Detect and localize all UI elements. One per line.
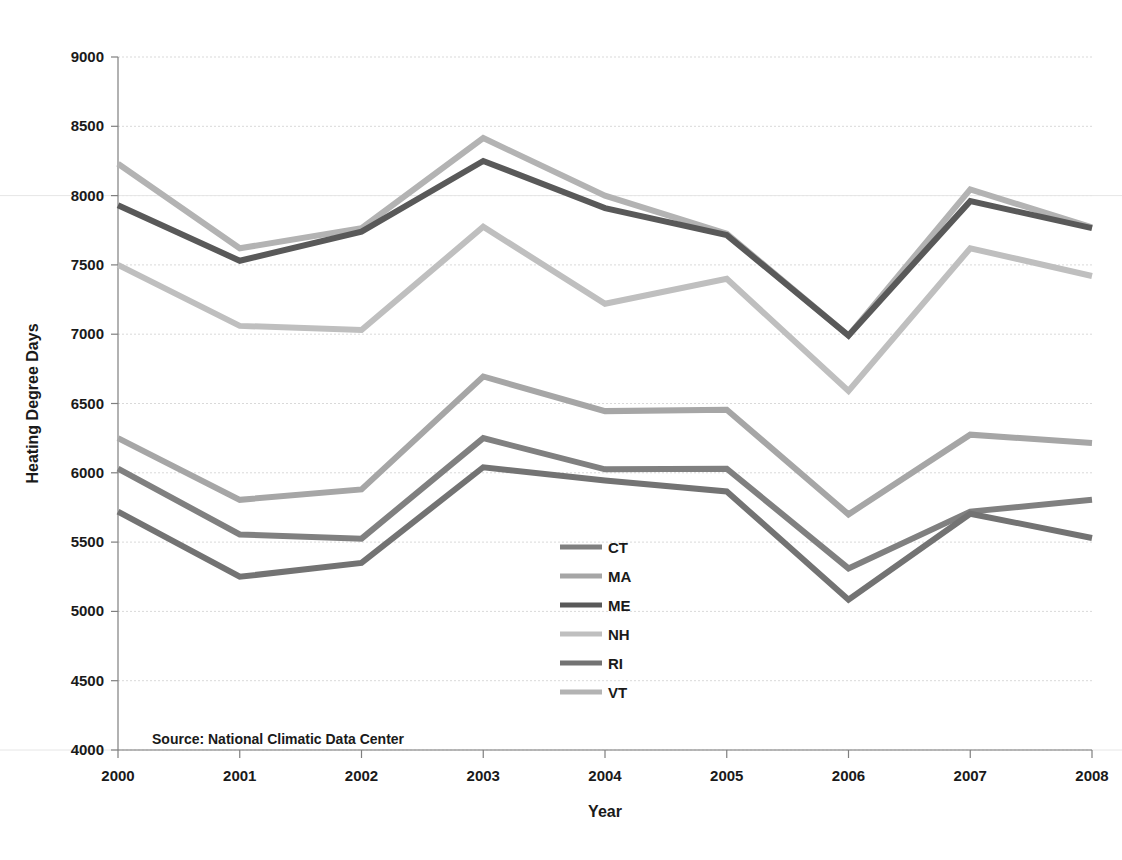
series-line-nh: [118, 227, 1092, 391]
series-line-ct: [118, 438, 1092, 568]
y-tick-label: 7500: [71, 256, 104, 273]
y-tick-label: 4000: [71, 741, 104, 758]
y-tick-label: 5000: [71, 602, 104, 619]
y-tick-marks-group: [111, 57, 118, 750]
legend: CTMAMENHRIVT: [560, 539, 631, 701]
x-tick-label: 2000: [101, 767, 134, 784]
series-line-me: [118, 161, 1092, 336]
y-tick-label: 8000: [71, 187, 104, 204]
x-tick-label: 2001: [223, 767, 256, 784]
series-line-ma: [118, 376, 1092, 514]
legend-label-ri: RI: [608, 655, 623, 672]
axis-lines-group: [118, 57, 1092, 750]
y-tick-label: 6000: [71, 464, 104, 481]
legend-label-nh: NH: [608, 626, 630, 643]
x-tick-label: 2005: [710, 767, 743, 784]
y-tick-label: 8500: [71, 117, 104, 134]
legend-label-ma: MA: [608, 568, 631, 585]
legend-label-me: ME: [608, 597, 631, 614]
x-tick-marks-group: [118, 750, 1092, 758]
x-tick-label: 2006: [832, 767, 865, 784]
y-tick-label: 9000: [71, 48, 104, 65]
y-tick-label: 6500: [71, 395, 104, 412]
x-tick-label: 2007: [954, 767, 987, 784]
data-series-group: [118, 138, 1092, 600]
legend-label-vt: VT: [608, 684, 627, 701]
heating-degree-days-line-chart: 4000450050005500600065007000750080008500…: [0, 0, 1122, 860]
x-axis-title: Year: [588, 803, 622, 820]
y-axis-tick-labels-group: 4000450050005500600065007000750080008500…: [71, 48, 104, 758]
x-tick-label: 2002: [345, 767, 378, 784]
y-tick-label: 4500: [71, 672, 104, 689]
chart-canvas: 4000450050005500600065007000750080008500…: [0, 0, 1122, 860]
legend-label-ct: CT: [608, 539, 628, 556]
y-tick-label: 7000: [71, 325, 104, 342]
gridlines-group: [118, 57, 1092, 750]
y-axis-title: Heating Degree Days: [24, 323, 41, 483]
x-tick-label: 2008: [1075, 767, 1108, 784]
source-annotation: Source: National Climatic Data Center: [152, 731, 405, 747]
x-tick-label: 2003: [467, 767, 500, 784]
x-tick-label: 2004: [588, 767, 622, 784]
y-tick-label: 5500: [71, 533, 104, 550]
x-axis-tick-labels-group: 200020012002200320042005200620072008: [101, 767, 1108, 784]
